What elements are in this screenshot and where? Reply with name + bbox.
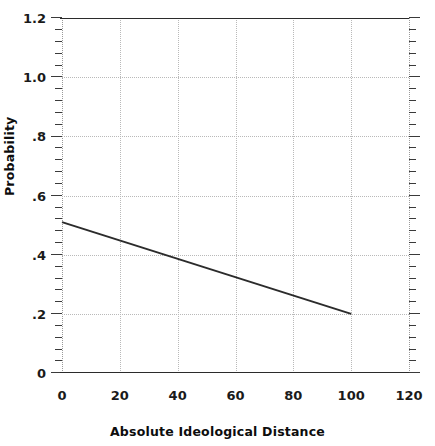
y-tick-major-left bbox=[51, 313, 62, 314]
y-tick-minor-left bbox=[55, 337, 62, 338]
y-tick-minor-right bbox=[409, 360, 416, 361]
y-tick-minor-left bbox=[55, 289, 62, 290]
y-tick-minor-right bbox=[409, 349, 416, 350]
y-tick-major-right bbox=[409, 195, 420, 196]
y-tick-major-left bbox=[51, 136, 62, 137]
y-tick-major-right bbox=[409, 254, 420, 255]
y-tick-minor-right bbox=[409, 29, 416, 30]
x-tick-label: 120 bbox=[395, 389, 422, 402]
y-tick-major-right bbox=[409, 17, 420, 18]
y-tick-minor-right bbox=[409, 88, 416, 89]
y-tick-minor-right bbox=[409, 171, 416, 172]
y-tick-minor-left bbox=[55, 124, 62, 125]
y-tick-minor-left bbox=[55, 53, 62, 54]
y-tick-minor-left bbox=[55, 266, 62, 267]
y-tick-minor-left bbox=[55, 301, 62, 302]
y-tick-minor-left bbox=[55, 29, 62, 30]
y-tick-major-right bbox=[409, 76, 420, 77]
y-tick-minor-left bbox=[55, 230, 62, 231]
y-tick-minor-right bbox=[409, 41, 416, 42]
y-tick-minor-right bbox=[409, 183, 416, 184]
y-tick-major-right bbox=[409, 136, 420, 137]
y-tick-minor-right bbox=[409, 124, 416, 125]
x-tick-label: 20 bbox=[111, 389, 129, 402]
y-tick-major-left bbox=[51, 76, 62, 77]
y-tick-major-right bbox=[409, 313, 420, 314]
y-tick-minor-left bbox=[55, 112, 62, 113]
y-tick-minor-left bbox=[55, 65, 62, 66]
y-tick-major-left bbox=[51, 195, 62, 196]
y-tick-minor-right bbox=[409, 100, 416, 101]
y-tick-minor-right bbox=[409, 301, 416, 302]
plot-area bbox=[62, 18, 409, 373]
y-tick-minor-left bbox=[55, 147, 62, 148]
y-tick-major-left bbox=[51, 254, 62, 255]
y-tick-minor-right bbox=[409, 218, 416, 219]
series-polyline bbox=[62, 222, 351, 314]
y-tick-minor-left bbox=[55, 183, 62, 184]
y-tick-minor-right bbox=[409, 266, 416, 267]
x-tick-label: 0 bbox=[57, 389, 66, 402]
y-tick-minor-left bbox=[55, 360, 62, 361]
x-tick-label: 40 bbox=[169, 389, 187, 402]
y-tick-minor-right bbox=[409, 112, 416, 113]
y-tick-label: .4 bbox=[32, 249, 46, 262]
x-tick-label: 80 bbox=[284, 389, 302, 402]
y-tick-label: 1.2 bbox=[23, 12, 46, 25]
x-axis-title: Absolute Ideological Distance bbox=[0, 424, 435, 439]
y-tick-minor-right bbox=[409, 337, 416, 338]
y-tick-minor-left bbox=[55, 207, 62, 208]
y-tick-label: 1.0 bbox=[23, 71, 46, 84]
y-tick-minor-left bbox=[55, 88, 62, 89]
y-tick-major-right bbox=[409, 372, 420, 373]
y-tick-minor-right bbox=[409, 53, 416, 54]
y-tick-label: .8 bbox=[32, 130, 46, 143]
y-tick-minor-right bbox=[409, 65, 416, 66]
y-tick-minor-left bbox=[55, 278, 62, 279]
y-tick-minor-right bbox=[409, 325, 416, 326]
y-tick-minor-left bbox=[55, 41, 62, 42]
y-tick-label: .6 bbox=[32, 190, 46, 203]
y-tick-minor-left bbox=[55, 349, 62, 350]
y-axis-title: Probability bbox=[2, 117, 17, 196]
y-tick-minor-left bbox=[55, 218, 62, 219]
probability-line-chart: Probability 0.2.4.6.81.01.2 020406080100… bbox=[0, 0, 435, 446]
x-tick-label: 100 bbox=[338, 389, 365, 402]
y-tick-minor-right bbox=[409, 289, 416, 290]
y-tick-minor-left bbox=[55, 325, 62, 326]
y-tick-minor-right bbox=[409, 147, 416, 148]
y-tick-minor-right bbox=[409, 242, 416, 243]
y-tick-minor-left bbox=[55, 100, 62, 101]
y-tick-minor-right bbox=[409, 207, 416, 208]
series-line-probability bbox=[62, 18, 409, 373]
y-tick-minor-left bbox=[55, 171, 62, 172]
y-tick-minor-right bbox=[409, 159, 416, 160]
y-tick-label: 0 bbox=[37, 367, 46, 380]
y-tick-label: .2 bbox=[32, 308, 46, 321]
y-tick-minor-left bbox=[55, 159, 62, 160]
y-tick-minor-left bbox=[55, 242, 62, 243]
y-tick-minor-right bbox=[409, 278, 416, 279]
y-tick-minor-right bbox=[409, 230, 416, 231]
x-tick-label: 60 bbox=[226, 389, 244, 402]
